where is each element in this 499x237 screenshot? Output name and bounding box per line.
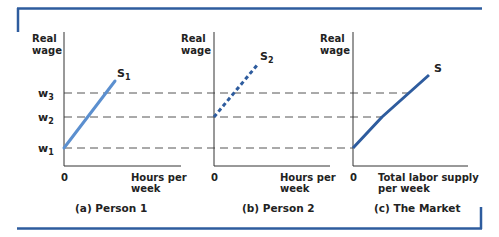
person1-x-label: Hours per [131,172,187,183]
person2-x-label-2: week [280,183,310,194]
person1-y-label-2: wage [32,45,62,56]
person1-supply-curve [64,81,115,148]
market-caption: (c) The Market [374,202,460,214]
market-curve-label: S [434,62,442,75]
panel-person2: Real wage S2 0 Hours per week (b) Person… [181,32,336,214]
person2-supply-curve [214,64,258,117]
person1-caption: (a) Person 1 [75,202,147,214]
market-supply-curve [353,75,429,148]
person2-y-label: Real [181,33,206,44]
market-x-label: Total labor supply [378,172,479,183]
w1-label: w1 [38,142,54,157]
w2-label: w2 [38,111,54,126]
person2-x-label: Hours per [280,172,336,183]
person1-x-label-2: week [131,183,161,194]
market-y-label-2: wage [320,45,350,56]
labor-supply-diagram: w3 w2 w1 Real wage S1 0 Hours per week (… [0,0,499,237]
person1-curve-label: S1 [117,67,131,82]
market-y-label: Real [320,33,345,44]
person2-caption: (b) Person 2 [242,202,315,214]
person1-origin-label: 0 [61,172,68,183]
person2-origin-label: 0 [211,172,218,183]
market-x-label-2: per week [378,183,430,194]
person2-curve-label: S2 [260,50,274,65]
person2-y-label-2: wage [181,45,211,56]
panel-market: Real wage S 0 Total labor supply per wee… [320,32,479,214]
person1-y-label: Real [32,33,57,44]
w3-label: w3 [38,87,54,102]
market-origin-label: 0 [350,172,357,183]
panel-person1: Real wage S1 0 Hours per week (a) Person… [32,32,187,214]
